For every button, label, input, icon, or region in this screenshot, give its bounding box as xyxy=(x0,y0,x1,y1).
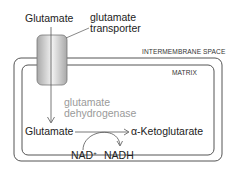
transporter-label-line1: glutamate xyxy=(90,12,136,23)
enzyme-label-line2: dehydrogenase xyxy=(64,108,136,119)
cofactor-arrow xyxy=(83,132,120,150)
enzyme-label-line1: glutamate xyxy=(64,97,110,108)
matrix-label: MATRIX xyxy=(172,70,197,77)
intermembrane-space-label: INTERMEMBRANE SPACE xyxy=(142,49,225,56)
product-label: α-Ketoglutarate xyxy=(131,126,203,137)
nad-label: NAD+ xyxy=(71,150,97,161)
nad-superscript: + xyxy=(93,150,97,156)
transporter-label-line2: transporter xyxy=(90,23,141,34)
nadh-label: NADH xyxy=(104,150,134,161)
outer-glutamate-label: Glutamate xyxy=(25,13,73,24)
nad-text: NAD xyxy=(71,149,93,161)
transporter-protein xyxy=(37,35,67,85)
substrate-glutamate-label: Glutamate xyxy=(25,126,73,137)
